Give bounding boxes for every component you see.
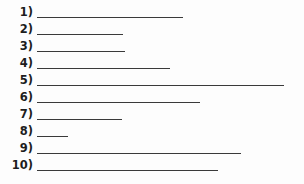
list-item-write-in-rule[interactable] — [37, 136, 68, 137]
list-item: 9) — [0, 140, 304, 157]
list-item-write-in-rule[interactable] — [37, 34, 123, 35]
list-item-write-in-rule[interactable] — [37, 85, 284, 86]
list-item-write-in-rule[interactable] — [37, 119, 122, 120]
list-item: 8) — [0, 123, 304, 140]
list-item-number: 9) — [0, 140, 33, 157]
list-item: 10) — [0, 157, 304, 174]
list-item-write-in-rule[interactable] — [37, 102, 200, 103]
list-item: 1) — [0, 4, 304, 21]
list-item-number: 10) — [0, 157, 33, 174]
list-item-write-in-rule[interactable] — [37, 170, 218, 171]
list-item-write-in-rule[interactable] — [37, 153, 241, 154]
list-item-number: 1) — [0, 4, 33, 21]
list-item-number: 2) — [0, 21, 33, 38]
list-item: 7) — [0, 106, 304, 123]
list-item-number: 7) — [0, 106, 33, 123]
list-item-number: 6) — [0, 89, 33, 106]
list-item-number: 5) — [0, 72, 33, 89]
list-item-number: 4) — [0, 55, 33, 72]
list-item: 2) — [0, 21, 304, 38]
list-item-write-in-rule[interactable] — [37, 17, 183, 18]
list-item-number: 8) — [0, 123, 33, 140]
list-item: 5) — [0, 72, 304, 89]
list-item: 4) — [0, 55, 304, 72]
list-item-write-in-rule[interactable] — [37, 51, 125, 52]
list-item-write-in-rule[interactable] — [37, 68, 170, 69]
worksheet-sheet: 1)2)3)4)5)6)7)8)9)10) — [0, 0, 304, 184]
list-item: 6) — [0, 89, 304, 106]
list-item-number: 3) — [0, 38, 33, 55]
list-item: 3) — [0, 38, 304, 55]
numbered-blank-line-list: 1)2)3)4)5)6)7)8)9)10) — [0, 0, 304, 184]
